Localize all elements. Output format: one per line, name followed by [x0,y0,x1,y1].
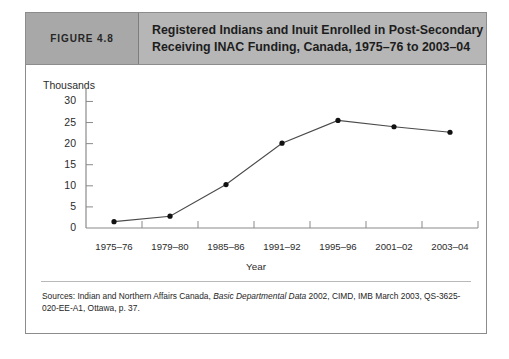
figure-number-label: FIGURE 4.8 [50,33,113,44]
x-axis-title: Year [26,261,486,272]
data-point-1975–76 [111,219,116,224]
figure-title: Registered Indians and Inuit Enrolled in… [139,13,486,64]
source-italic-title: Basic Departmental Data [213,291,306,301]
data-point-1979–80 [167,214,172,219]
data-point-2001–02 [391,124,396,129]
figure-title-line-1: Registered Indians and Inuit Enrolled in… [152,22,486,39]
figure-title-line-2: Receiving INAC Funding, Canada, 1975–76 … [152,39,486,56]
figure-card: FIGURE 4.8 Registered Indians and Inuit … [25,12,487,334]
source-note: Sources: Indian and Northern Affairs Can… [42,291,467,314]
data-series-line [114,120,450,221]
figure-header: FIGURE 4.8 Registered Indians and Inuit … [26,13,486,65]
chart-axes [86,88,478,228]
data-point-2003–04 [447,130,452,135]
data-point-1995–96 [335,118,340,123]
data-point-markers [111,118,452,224]
data-point-1985–86 [223,182,228,187]
source-prefix: Sources: Indian and Northern Affairs Can… [42,291,213,301]
data-point-1991–92 [279,141,284,146]
figure-body: Thousands 051015202530 1975–761979–80198… [26,65,486,334]
chart-tick-marks [86,101,478,228]
figure-number-box: FIGURE 4.8 [26,13,139,64]
source-divider [41,281,471,282]
line-chart-plot [26,65,486,280]
